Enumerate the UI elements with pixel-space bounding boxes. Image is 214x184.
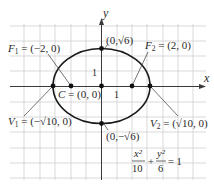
svg-text:y²: y² [156,148,166,159]
point-f2 [130,84,135,89]
point-bottom [99,121,104,126]
svg-text:x²: x² [133,148,143,159]
label-v1: V1 = (−√10, 0) [8,115,72,129]
y-unit-tick-label: 1 [92,67,97,78]
svg-text:= 1: = 1 [168,156,182,167]
y-axis-label: y [102,6,109,20]
label-center: C = (0, 0) [58,88,101,101]
point-top [99,46,104,51]
ellipse-diagram: x y 1 1 F1 = (−2, 0) F2 = (2, 0) C = (0,… [0,0,214,184]
svg-text:6: 6 [158,163,163,174]
label-bottom-point: (0,−√6) [106,130,140,143]
svg-text:10: 10 [132,163,143,174]
label-f1: F1 = (−2, 0) [7,42,61,56]
label-f2: F2 = (2, 0) [144,39,191,53]
label-top-point: (0,√6) [106,34,133,47]
ellipse-equation: x² 10 + y² 6 = 1 [132,148,182,174]
svg-text:+: + [148,156,154,167]
point-v2 [148,84,153,89]
x-axis-label: x [203,71,210,85]
point-v1 [51,84,56,89]
x-unit-tick-label: 1 [114,89,119,100]
label-v2: V2 = (√10, 0) [150,117,208,131]
